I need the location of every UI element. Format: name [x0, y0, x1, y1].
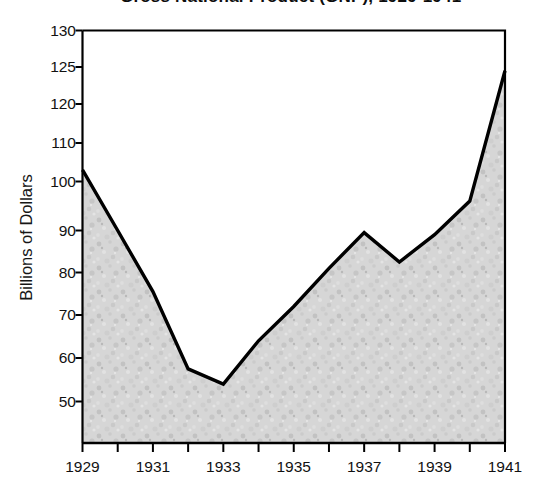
x-tick-label: 1939 — [405, 459, 465, 475]
x-tick-label: 1941 — [475, 459, 535, 475]
gnp-area-chart: Gross National Product (GNP), 1929-1941 … — [0, 0, 535, 503]
x-tick-label: 1937 — [334, 459, 394, 475]
x-tick-label: 1931 — [123, 459, 183, 475]
x-axis-tick-labels: 1929193119331935193719391941 — [0, 459, 535, 483]
x-tick-label: 1935 — [264, 459, 324, 475]
x-tick-label: 1933 — [193, 459, 253, 475]
chart-graphics — [76, 31, 506, 453]
plot-area — [0, 0, 535, 503]
x-tick-label: 1929 — [53, 459, 113, 475]
area-fill — [83, 71, 506, 443]
